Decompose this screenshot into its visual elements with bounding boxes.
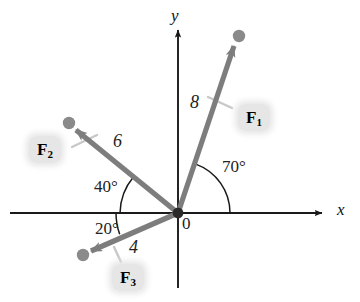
tip-dot-f2 (63, 117, 75, 129)
force-label-f3-subscript: 3 (130, 276, 136, 288)
angle-label-20: 20° (95, 219, 119, 239)
angle-label-40: 40° (94, 177, 118, 197)
magnitude-f3: 4 (129, 237, 138, 258)
force-label-f2-box: F2 (29, 136, 61, 163)
force-label-f3: F3 (112, 268, 144, 288)
vector-f2 (76, 130, 178, 213)
force-label-f2: F2 (29, 140, 61, 160)
angle-label-70: 70° (222, 157, 246, 177)
tip-dot-f1 (233, 30, 245, 42)
y-axis-label: y (171, 6, 179, 26)
magnitude-f2: 6 (113, 131, 122, 152)
force-label-f3-box: F3 (112, 264, 144, 291)
force-label-f1: F1 (238, 108, 270, 128)
magnitude-f1: 8 (190, 92, 199, 113)
origin-label: 0 (182, 214, 191, 234)
force-label-f1-subscript: 1 (256, 116, 262, 128)
leader-f3 (114, 247, 121, 262)
x-axis-label: x (337, 200, 345, 220)
vector-f1 (178, 46, 234, 213)
force-vector-diagram: y x 0 8 6 4 70° 40° 20° F1 F2 F3 (0, 0, 360, 302)
force-label-f3-letter: F (120, 268, 130, 287)
force-label-f2-subscript: 2 (47, 148, 53, 160)
arc-40 (120, 177, 134, 213)
force-label-f2-letter: F (37, 140, 47, 159)
force-label-f1-box: F1 (238, 104, 270, 131)
force-label-f1-letter: F (246, 108, 256, 127)
vector-tip-dots (63, 30, 245, 261)
tip-dot-f3 (77, 249, 89, 261)
